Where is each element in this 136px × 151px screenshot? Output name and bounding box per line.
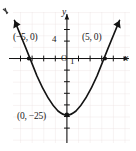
marker-right-intercept [103, 56, 107, 60]
scan-artifact [3, 8, 8, 14]
marker-vertex [65, 113, 70, 118]
origin-label: O [61, 54, 67, 63]
label-right-intercept: (5, 0) [82, 33, 101, 43]
coordinate-plane-svg [0, 0, 136, 151]
x-axis-label: x [124, 54, 128, 64]
marker-left-intercept [27, 56, 31, 60]
label-vertex: (0, −25) [17, 112, 46, 122]
x-axis-tick-label-1: 1 [70, 57, 74, 66]
graph-figure: (−5, 0) (5, 0) (0, −25) 4 1 O y x [0, 0, 136, 151]
y-axis-tick-label-4: 4 [52, 35, 56, 44]
y-axis-label: y [62, 8, 66, 18]
label-left-intercept: (−5, 0) [13, 33, 38, 43]
